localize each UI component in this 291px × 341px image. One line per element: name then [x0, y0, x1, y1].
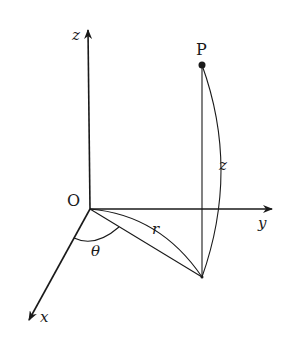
point-p-label: P	[196, 40, 207, 59]
radius-label: r	[152, 220, 160, 238]
x-axis-label: x	[40, 308, 49, 326]
theta-label: θ	[91, 242, 100, 260]
point-p-dot	[199, 62, 206, 69]
height-label: z	[218, 156, 227, 174]
y-axis-label: y	[257, 214, 267, 232]
z-axis	[88, 30, 90, 209]
cylindrical-coordinates-diagram: z y x O P r θ z	[0, 0, 291, 341]
theta-angle-arc	[74, 227, 119, 241]
radius-line	[90, 209, 202, 277]
origin-label: O	[67, 191, 80, 210]
x-axis	[29, 209, 90, 320]
z-axis-label: z	[71, 26, 80, 44]
projection-point-dot	[201, 276, 204, 279]
